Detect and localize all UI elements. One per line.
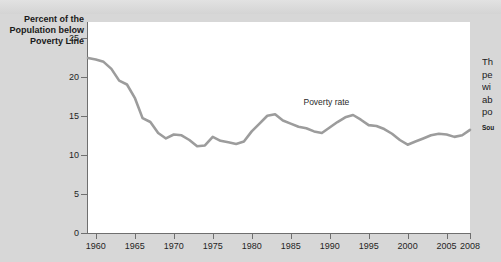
poverty-rate-annotation: Poverty rate [303,97,349,107]
side-body-line: ab [482,94,501,107]
side-body-text: Thpewiabpo [482,56,501,119]
side-source-label: Sou [482,124,501,132]
poverty-rate-figure: Percent of the Population below Poverty … [0,0,501,262]
side-body-line: Th [482,56,501,69]
poverty-rate-line [88,58,470,146]
side-body-line: pe [482,69,501,82]
side-body-line: wi [482,81,501,94]
side-body-line: po [482,106,501,119]
poverty-rate-line-chart [0,0,501,262]
